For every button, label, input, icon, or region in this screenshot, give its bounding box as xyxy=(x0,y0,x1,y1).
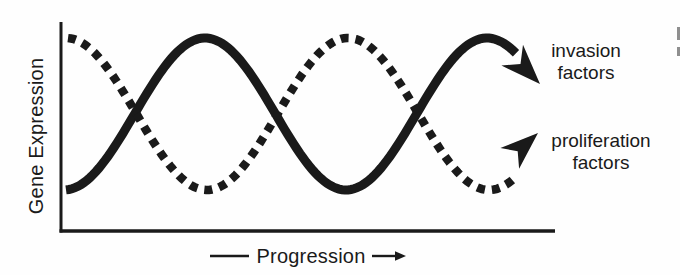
chart-canvas: Gene Expression Progression invasion fac… xyxy=(0,0,680,275)
proliferation-factors-label: proliferation factors xyxy=(551,130,650,173)
x-axis-label: Progression xyxy=(257,245,366,267)
y-axis-label: Gene Expression xyxy=(25,58,47,214)
invasion-factors-curve xyxy=(66,38,516,190)
x-axis-label-group: Progression xyxy=(210,245,406,267)
x-label-arrow-icon xyxy=(395,251,406,260)
invasion-label-line2: factors xyxy=(557,62,614,83)
gene-expression-progression-figure: Gene Expression Progression invasion fac… xyxy=(0,0,680,275)
invasion-factors-label: invasion factors xyxy=(551,40,621,83)
invasion-label-line1: invasion xyxy=(551,40,621,61)
proliferation-arrow-icon xyxy=(500,133,538,169)
proliferation-label-line1: proliferation xyxy=(551,130,650,151)
proliferation-label-line2: factors xyxy=(572,152,629,173)
